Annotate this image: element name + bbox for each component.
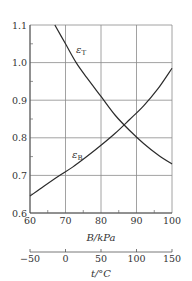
- x-axis-title: B/kPa: [85, 232, 115, 243]
- secondary-axis-tick-label: 150: [163, 253, 181, 264]
- y-tick-label: 0.7: [12, 170, 27, 181]
- y-tick-label: 0.9: [12, 95, 27, 106]
- x-tick-label: 70: [59, 215, 71, 226]
- series-curve-t: [55, 25, 172, 164]
- series-labels: εTεB: [72, 44, 86, 162]
- series-label-t: εT: [76, 44, 86, 57]
- chart: 0.60.70.80.91.01.1 60708090100 εTεB B/kP…: [0, 0, 192, 281]
- x-axis: 60708090100: [24, 210, 181, 226]
- grid-lines: [30, 25, 172, 213]
- x-tick-label: 80: [95, 215, 107, 226]
- y-tick-label: 1.1: [12, 20, 27, 31]
- x-tick-label: 100: [163, 215, 181, 226]
- secondary-axis-tick-label: 100: [127, 253, 145, 264]
- y-tick-label: 1.0: [12, 57, 27, 68]
- y-tick-label: 0.8: [12, 132, 27, 143]
- x-tick-label: 90: [130, 215, 142, 226]
- secondary-temperature-axis: −50050100150: [20, 249, 181, 264]
- secondary-axis-tick-label: −50: [20, 253, 40, 264]
- secondary-axis-tick-label: 0: [62, 253, 68, 264]
- series-label-b: εB: [72, 149, 83, 162]
- secondary-axis-tick-label: 50: [95, 253, 107, 264]
- secondary-axis-title: t/°C: [91, 268, 111, 279]
- x-tick-label: 60: [24, 215, 36, 226]
